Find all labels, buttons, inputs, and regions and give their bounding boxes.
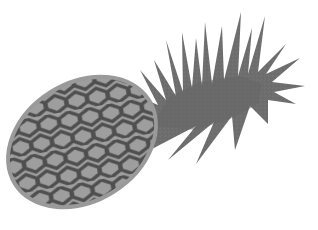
- illustration-canvas: Pineapple: [0, 0, 318, 230]
- pineapple-illustration: [0, 0, 318, 230]
